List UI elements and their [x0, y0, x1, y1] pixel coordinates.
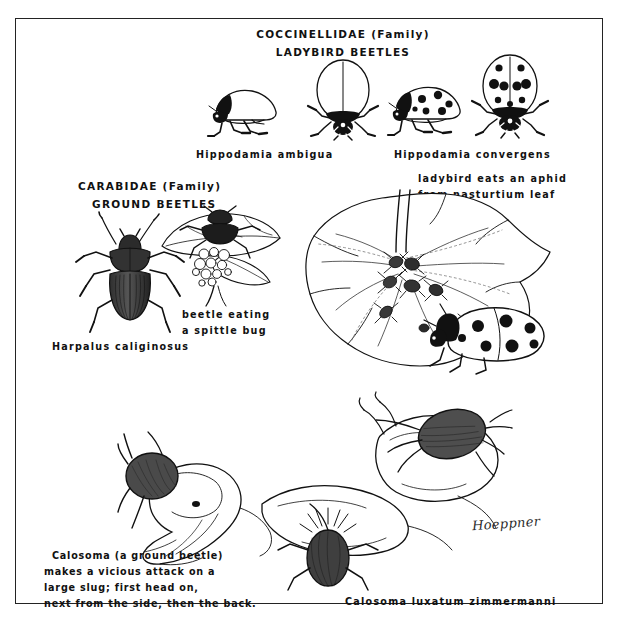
note-calosoma-line2: makes a vicious attack on a — [44, 565, 215, 580]
note-calosoma-line1: Calosoma (a ground beetle) — [52, 549, 223, 564]
note-ladybird-eats-aphid-line1: ladybird eats an aphid — [418, 172, 567, 187]
note-calosoma-line4: next from the side, then the back. — [44, 597, 257, 612]
heading-coccinellidae-family: COCCINELLIDAE (Family) — [233, 26, 453, 42]
figure-hippodamia-ambigua-dorsal — [300, 56, 386, 142]
figure-hippodamia-convergens-dorsal — [464, 52, 556, 142]
label-hippodamia-convergens: Hippodamia convergens — [394, 148, 551, 163]
figure-beetle-eating-spittle-bug — [156, 206, 286, 306]
note-calosoma-line3: large slug; first head on, — [44, 581, 199, 596]
figure-hippodamia-ambigua-lateral — [206, 78, 288, 140]
note-beetle-eating-spittle-bug-line2: a spittle bug — [182, 324, 267, 339]
figure-nasturtium-leaf-scene — [296, 190, 562, 376]
label-hippodamia-ambigua: Hippodamia ambigua — [196, 148, 333, 163]
illustration-plate: COCCINELLIDAE (Family) LADYBIRD BEETLES — [0, 0, 620, 618]
note-beetle-eating-spittle-bug-line1: beetle eating — [182, 308, 270, 323]
label-calosoma-luxatum-zimmermanni: Calosoma luxatum zimmermanni — [345, 595, 557, 610]
heading-carabidae-family: CARABIDAE (Family) — [78, 178, 221, 194]
figure-calosoma-slug-side-and-back — [262, 392, 562, 592]
label-harpalus-caliginosus: Harpalus caliginosus — [52, 340, 189, 355]
figure-hippodamia-convergens-lateral — [386, 76, 472, 140]
